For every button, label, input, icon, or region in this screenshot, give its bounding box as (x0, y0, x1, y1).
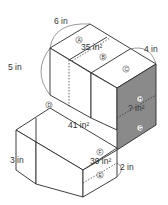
area-shaded: ? in² (128, 103, 145, 113)
dim-3in: 3 in (10, 155, 24, 165)
area-top: 35 in² (81, 42, 102, 52)
region-label-f: F (99, 149, 102, 155)
region-label-h: H (139, 96, 143, 102)
arc-5in (41, 48, 50, 95)
region-label-c: C (125, 66, 129, 72)
diagram-svg: 6 in 5 in 4 in 3 in 2 in 35 in² 41 in² 3… (0, 0, 168, 205)
area-middle: 41 in² (68, 120, 89, 130)
area-front: 39 in² (90, 156, 111, 166)
region-label-g: G (139, 125, 143, 131)
dim-4in: 4 in (144, 44, 158, 54)
composite-prism-diagram: 6 in 5 in 4 in 3 in 2 in 35 in² 41 in² 3… (0, 0, 168, 205)
dim-5in: 5 in (8, 62, 22, 72)
dim-2in: 2 in (120, 162, 134, 172)
dim-6in: 6 in (54, 16, 68, 26)
region-label-d: D (48, 102, 52, 108)
